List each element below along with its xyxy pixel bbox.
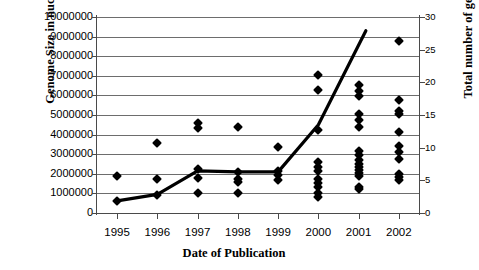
y-tick-mark-left	[92, 37, 97, 38]
y-tick-label-left: 4000000	[17, 129, 93, 140]
y-tick-mark-right	[420, 82, 425, 83]
y-tick-mark-left	[92, 154, 97, 155]
x-tick-label: 2001	[336, 226, 382, 238]
y-tick-label-right: 15	[425, 110, 455, 120]
y-tick-label-left: 10000000	[17, 11, 93, 22]
x-tick-label: 1999	[255, 226, 301, 238]
x-tick-label: 1997	[175, 226, 221, 238]
y-tick-label-left: 7000000	[17, 70, 93, 81]
y-tick-mark-right	[420, 148, 425, 149]
y-tick-label-left: 8000000	[17, 50, 93, 61]
x-tick-label: 1995	[94, 226, 140, 238]
y-tick-mark-left	[92, 213, 97, 214]
y-tick-mark-left	[92, 56, 97, 57]
y-tick-label-right: 10	[425, 143, 455, 153]
y-tick-mark-left	[92, 17, 97, 18]
y-tick-label-right: 0	[425, 208, 455, 218]
y-tick-mark-right	[420, 17, 425, 18]
y-tick-label-left: 6000000	[17, 89, 93, 100]
y-tick-mark-left	[92, 76, 97, 77]
x-tick-mark	[399, 214, 400, 219]
y-tick-mark-left	[92, 174, 97, 175]
y-tick-mark-right	[420, 180, 425, 181]
y-tick-mark-left	[92, 135, 97, 136]
y-tick-label-left: 0	[17, 207, 93, 218]
x-axis-line	[96, 213, 420, 214]
x-tick-mark	[359, 214, 360, 219]
x-tick-mark	[117, 214, 118, 219]
y-tick-mark-left	[92, 115, 97, 116]
x-tick-label: 1998	[215, 226, 261, 238]
y-tick-label-right: 20	[425, 77, 455, 87]
y-tick-label-left: 3000000	[17, 148, 93, 159]
y-tick-mark-right	[420, 115, 425, 116]
x-tick-label: 2002	[376, 226, 422, 238]
y-tick-mark-left	[92, 193, 97, 194]
x-tick-mark	[198, 214, 199, 219]
y-tick-label-right: 5	[425, 175, 455, 185]
y-tick-label-right: 25	[425, 45, 455, 55]
x-tick-mark	[238, 214, 239, 219]
y-tick-label-right: 30	[425, 12, 455, 22]
x-tick-label: 2000	[295, 226, 341, 238]
y-tick-label-left: 2000000	[17, 168, 93, 179]
trend-line	[97, 17, 419, 213]
x-tick-mark	[278, 214, 279, 219]
y-tick-mark-right	[420, 213, 425, 214]
x-axis-labels: 19951996199719981999200020012002	[0, 221, 468, 241]
y-tick-mark-right	[420, 50, 425, 51]
x-tick-label: 1996	[134, 226, 180, 238]
x-tick-mark	[157, 214, 158, 219]
plot-area	[97, 17, 419, 213]
y-tick-mark-left	[92, 95, 97, 96]
y-tick-label-left: 5000000	[17, 109, 93, 120]
y-tick-label-left: 9000000	[17, 31, 93, 42]
y-tick-label-left: 1000000	[17, 187, 93, 198]
x-tick-mark	[318, 214, 319, 219]
